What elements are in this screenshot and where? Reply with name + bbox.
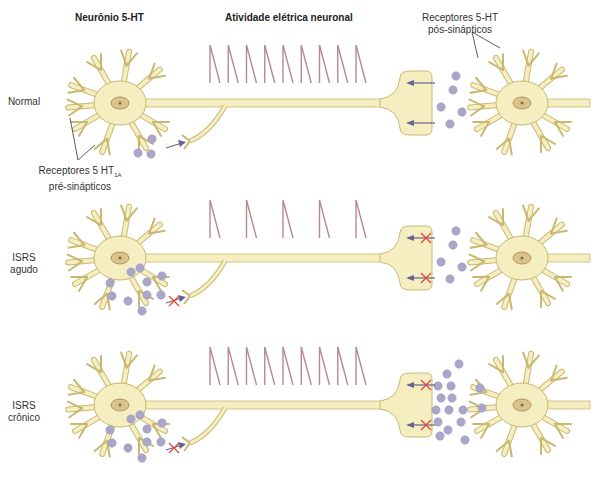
post-receptors-label: Receptores 5-HT pós-sinápticos [400, 12, 520, 36]
spike-icon [356, 347, 366, 385]
spike-icon [283, 200, 293, 238]
post-receptors-line2: pós-sinápticos [400, 24, 520, 36]
row-0 [68, 45, 590, 158]
spike-icon [228, 347, 238, 385]
row-label-isrs-cronico: ISRS crônico [2, 400, 46, 424]
spike-icon [210, 347, 220, 385]
spike-icon [320, 347, 330, 385]
spike-icon [210, 45, 220, 83]
spike-icon [247, 200, 257, 238]
spike-icon [283, 45, 293, 83]
serotonin-diagram [0, 0, 606, 481]
pre-receptors-label: Receptores 5 HT1A pré-sinápticos [20, 165, 140, 193]
spike-icon [210, 200, 220, 238]
spike-icon [356, 200, 366, 238]
activity-title: Atividade elétrica neuronal [225, 12, 353, 23]
neuron-title: Neurônio 5-HT [75, 12, 144, 23]
spike-icon [320, 200, 330, 238]
spike-icon [301, 45, 311, 83]
spike-icon [338, 347, 348, 385]
spike-icon [247, 45, 257, 83]
post-receptors-line1: Receptores 5-HT [400, 12, 520, 24]
spike-icon [338, 45, 348, 83]
row-label-isrs-agudo: ISRS agudo [2, 252, 46, 276]
spike-icon [265, 347, 275, 385]
row-2 [68, 347, 590, 462]
spike-icon [247, 347, 257, 385]
spike-icon [265, 45, 275, 83]
pre-receptors-line2: pré-sinápticos [20, 181, 140, 193]
pre-receptors-line1: Receptores 5 HT1A [20, 165, 140, 181]
spike-icon [283, 347, 293, 385]
spike-icon [301, 347, 311, 385]
spike-icon [228, 45, 238, 83]
row-label-normal: Normal [2, 96, 46, 108]
spike-icon [320, 45, 330, 83]
row-1 [68, 200, 590, 315]
spike-icon [356, 45, 366, 83]
